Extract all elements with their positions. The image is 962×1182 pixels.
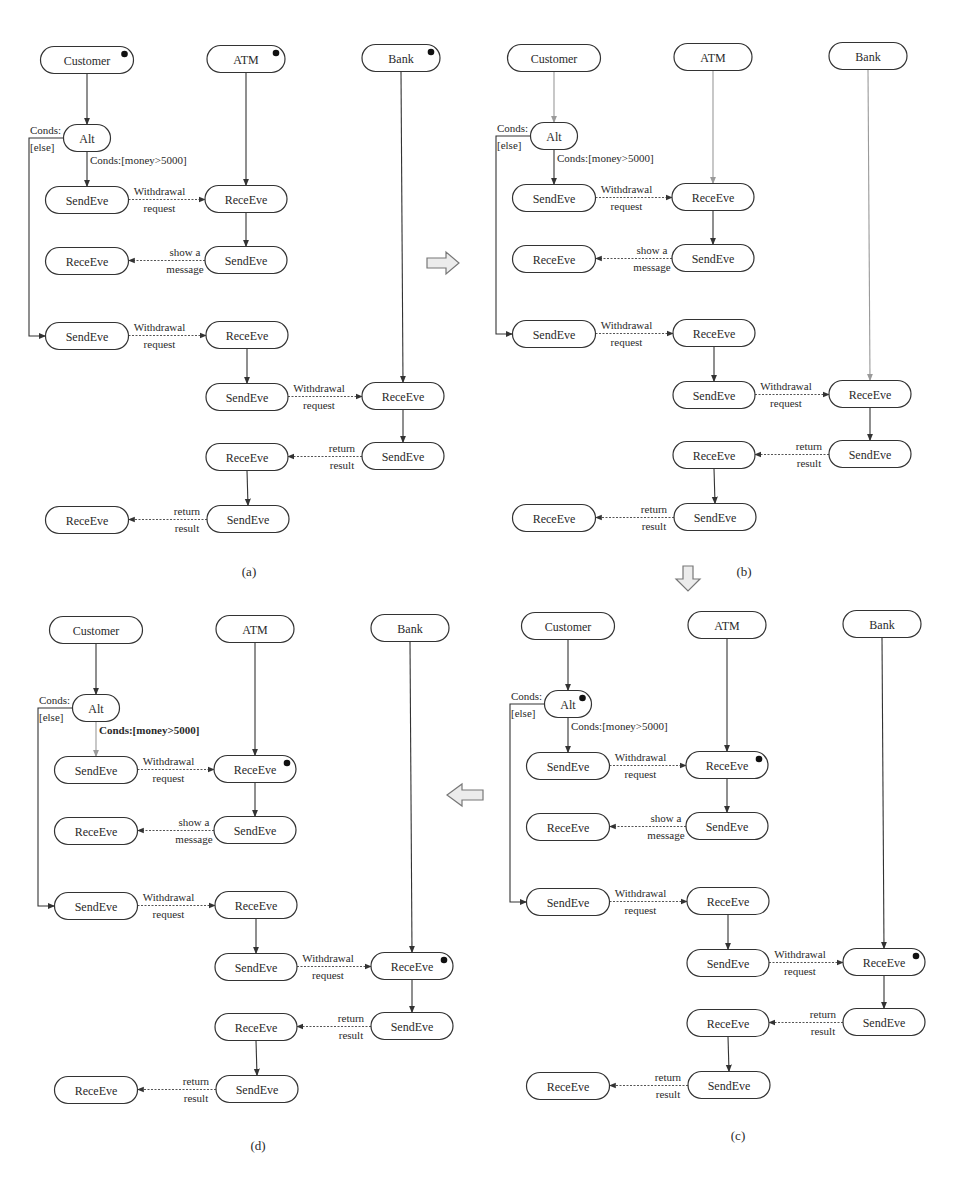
nodes-layer: CustomerATMBankAltSendEveReceEveReceEveS… <box>41 45 445 534</box>
node-rece2: ReceEve <box>513 246 596 273</box>
node-label: ReceEve <box>547 1080 590 1094</box>
node-label: ReceEve <box>75 1084 118 1098</box>
node-label: ReceEve <box>391 960 434 974</box>
node-send5: SendEve <box>371 1013 453 1040</box>
message-label-bottom: result <box>642 520 666 532</box>
node-send2: SendEve <box>205 247 287 274</box>
node-label: ReceEve <box>707 895 750 909</box>
nodes-layer: CustomerATMBankAltSendEveReceEveReceEveS… <box>522 611 926 1100</box>
node-customer: Customer <box>522 613 615 640</box>
control-edge-bank-rece4 <box>882 638 884 949</box>
node-customer: Customer <box>50 617 143 644</box>
node-label: SendEve <box>706 820 749 834</box>
token-dot-icon <box>273 50 280 57</box>
token-dot-icon <box>441 957 448 964</box>
message-label-top: return <box>183 1075 210 1087</box>
message-label-top: Withdrawal <box>615 887 666 899</box>
message-label-top: show a <box>170 246 201 258</box>
node-rece1: ReceEve <box>672 184 754 211</box>
diagram-svg: Withdrawalrequestshow amessageWithdrawal… <box>0 0 962 1182</box>
node-label: ReceEve <box>693 327 736 341</box>
node-send2: SendEve <box>214 817 296 844</box>
node-label: SendEve <box>707 957 750 971</box>
node-label: SendEve <box>533 192 576 206</box>
message-label-bottom: message <box>633 261 670 273</box>
node-label: SendEve <box>708 1079 751 1093</box>
node-send2: SendEve <box>686 813 768 840</box>
node-label: Alt <box>560 698 576 712</box>
panel-c: Withdrawalrequestshow amessageWithdrawal… <box>510 611 925 1144</box>
caption-b: (b) <box>736 564 751 579</box>
message-label-bottom: result <box>184 1092 208 1104</box>
node-rece3: ReceEve <box>687 888 769 915</box>
node-label: ReceEve <box>692 191 735 205</box>
node-rece5: ReceEve <box>673 442 755 469</box>
message-label-bottom: result <box>656 1088 680 1100</box>
node-rece4: ReceEve <box>829 381 911 408</box>
message-label-top: return <box>796 440 823 452</box>
node-label: SendEve <box>75 900 118 914</box>
node-send3: SendEve <box>46 323 129 350</box>
node-rece2: ReceEve <box>55 818 138 845</box>
node-rece6: ReceEve <box>55 1077 138 1104</box>
node-label: Alt <box>79 132 95 146</box>
node-rece5: ReceEve <box>215 1014 297 1041</box>
message-label-bottom: request <box>153 772 185 784</box>
message-label-top: Withdrawal <box>293 382 344 394</box>
node-label: SendEve <box>693 389 736 403</box>
node-label: ReceEve <box>547 821 590 835</box>
node-send3: SendEve <box>527 889 610 916</box>
message-label-bottom: request <box>611 336 643 348</box>
node-label: ReceEve <box>706 759 749 773</box>
if-condition-label: Conds:[money>5000] <box>90 154 187 166</box>
message-label-top: return <box>810 1008 837 1020</box>
message-label-top: return <box>329 442 356 454</box>
node-customer: Customer <box>41 47 134 74</box>
node-label: SendEve <box>692 252 735 266</box>
message-label-bottom: request <box>625 768 657 780</box>
node-label: Alt <box>546 130 562 144</box>
node-label: ReceEve <box>225 193 268 207</box>
node-label: SendEve <box>849 448 892 462</box>
panel-a: Withdrawalrequestshow amessageWithdrawal… <box>29 45 444 580</box>
caption-a: (a) <box>242 564 256 579</box>
message-label-bottom: result <box>811 1025 835 1037</box>
message-label-bottom: message <box>175 833 212 845</box>
control-edge-rece5-send6 <box>714 469 715 504</box>
token-dot-icon <box>913 953 920 960</box>
node-label: Customer <box>545 620 592 634</box>
else-condition-label: Conds: <box>39 694 70 706</box>
node-send4: SendEve <box>687 950 769 977</box>
node-send3: SendEve <box>513 321 596 348</box>
message-label-top: Withdrawal <box>774 948 825 960</box>
node-bank: Bank <box>371 615 449 642</box>
message-label-top: Withdrawal <box>760 380 811 392</box>
node-send1: SendEve <box>527 753 610 780</box>
message-label-top: return <box>174 505 201 517</box>
else-value-label: [else] <box>497 139 521 151</box>
node-send4: SendEve <box>206 384 288 411</box>
message-label-bottom: message <box>166 263 203 275</box>
message-label-top: Withdrawal <box>143 755 194 767</box>
node-label: SendEve <box>533 328 576 342</box>
flow-arrow-down-icon <box>676 566 700 591</box>
node-send4: SendEve <box>673 382 755 409</box>
token-dot-icon <box>756 756 763 763</box>
execution-diagram-figure: Withdrawalrequestshow amessageWithdrawal… <box>0 0 962 1182</box>
message-label-bottom: request <box>625 904 657 916</box>
message-label-bottom: request <box>144 338 176 350</box>
node-send6: SendEve <box>207 506 289 533</box>
node-rece4: ReceEve <box>371 953 453 980</box>
message-label-bottom: result <box>339 1029 363 1041</box>
node-send4: SendEve <box>215 954 297 981</box>
node-label: ATM <box>700 51 726 65</box>
panel-b: Withdrawalrequestshow amessageWithdrawal… <box>496 43 911 580</box>
node-label: Customer <box>64 54 111 68</box>
control-edge-rece5-send6 <box>728 1037 729 1072</box>
node-send5: SendEve <box>362 443 444 470</box>
message-label-bottom: request <box>770 397 802 409</box>
flow-arrow-left-icon <box>447 784 483 806</box>
node-atm: ATM <box>674 44 752 71</box>
message-label-top: show a <box>179 816 210 828</box>
node-label: Bank <box>397 622 422 636</box>
